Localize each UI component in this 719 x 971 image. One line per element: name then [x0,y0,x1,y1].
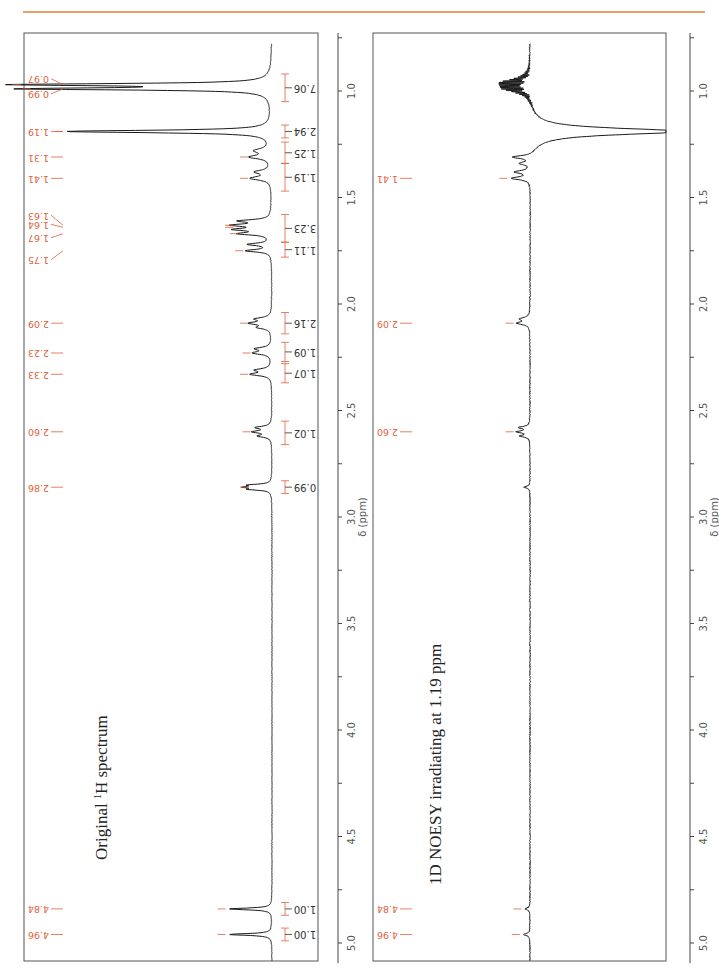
peak-label: 2.33 [28,370,49,381]
peak-label: 2.60 [28,427,49,438]
axis-tick-label: 1.5 [346,190,357,206]
axis-tick-label: 4.5 [698,829,709,845]
integral-value: 1.09 [294,347,316,358]
peak-leader [51,251,63,260]
peak-label: 2.86 [28,483,49,494]
panel-title: 1D NOESY irradiating at 1.19 ppm [426,644,445,885]
spectrum-trace [499,44,666,961]
nmr-figure: 0.970.991.191.311.411.631.641.671.752.09… [0,0,719,971]
axis-tick-label: 4.0 [346,722,357,738]
peak-label: 2.09 [28,319,49,330]
axis-tick-label: 5.0 [346,935,357,951]
peak-leader [51,215,63,225]
axis-tick-label: 2.5 [698,403,709,419]
peak-annotations: 1.412.092.604.844.96 [377,174,522,941]
ppm-axis: 1.01.52.02.53.03.54.04.55.0δ (ppm) [690,33,719,963]
axis-title: δ (ppm) [709,497,719,537]
axis-tick-label: 3.5 [346,616,357,632]
peak-label: 2.23 [28,348,49,359]
integral-value: 1.07 [294,368,316,379]
integral-value: 2.94 [294,126,316,137]
peak-label: 4.96 [377,930,398,941]
peak-leader [51,224,63,227]
peak-label: 1.75 [28,255,49,266]
plot-frame [24,33,318,961]
axis-tick-label: 1.5 [698,190,709,206]
panel-original-1h-spectrum: 0.970.991.191.311.411.631.641.671.752.09… [6,33,369,963]
axis-tick-label: 2.5 [346,403,357,419]
axis-tick-label: 3.5 [698,616,709,632]
peak-label: 4.84 [28,904,49,915]
peak-label: 2.60 [377,427,398,438]
axis-tick-label: 2.0 [698,296,709,312]
axis-tick-label: 3.0 [698,509,709,525]
panel-title: Original 1H spectrum [92,715,111,860]
peak-label: 1.67 [28,233,49,244]
axis-tick-label: 2.0 [346,296,357,312]
integral-value: 7.06 [294,83,316,94]
peak-label: 0.97 [28,74,49,85]
integral-value: 2.16 [294,318,316,329]
ppm-axis: 1.01.52.02.53.03.54.04.55.0δ (ppm) [338,33,368,963]
peak-label: 1.41 [377,174,398,185]
axis-title: δ (ppm) [357,497,368,537]
integral-value: 1.11 [294,245,316,256]
peak-label: 2.09 [377,319,398,330]
peak-label: 1.19 [28,127,49,138]
peak-label: 1.41 [28,174,49,185]
peak-label: 4.84 [377,904,398,915]
integral-value: 1.19 [294,172,316,183]
peak-label: 1.31 [28,153,49,164]
integral-markers: 7.062.941.251.193.231.112.161.091.071.02… [281,74,316,941]
peak-label: 0.99 [28,89,49,100]
integral-value: 1.00 [294,929,316,940]
peak-label: 4.96 [28,930,49,941]
peak-label: 1.64 [28,220,49,231]
axis-tick-label: 1.0 [346,83,357,99]
axis-tick-label: 4.5 [346,829,357,845]
integral-value: 3.23 [294,223,316,234]
integral-value: 0.99 [294,482,316,493]
axis-tick-label: 1.0 [698,83,709,99]
axis-tick-label: 5.0 [698,935,709,951]
spectrum-line [499,44,666,961]
panel-1d-noesy: 1.412.092.604.844.96 1.01.52.02.53.03.54… [373,33,719,963]
axis-tick-label: 3.0 [346,509,357,525]
integral-value: 1.00 [294,904,316,915]
plot-frame [373,33,666,961]
integral-value: 1.25 [294,148,316,159]
peak-annotations: 0.970.991.191.311.411.631.641.671.752.09… [13,74,251,941]
peak-leader [51,234,63,238]
integral-value: 1.02 [294,428,316,439]
axis-tick-label: 4.0 [698,722,709,738]
